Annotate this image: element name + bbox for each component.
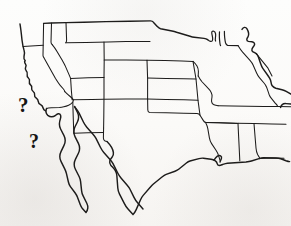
- state-border-virginia-northcarolina: [256, 54, 272, 76]
- mexico-mainland-coastline: [75, 107, 143, 209]
- state-border-california-arizona: [47, 92, 74, 109]
- state-border-arkansas-mississippi: [206, 122, 220, 160]
- united-states-outline-map: [0, 0, 291, 226]
- state-border-kentucky-tennessee: [218, 106, 291, 107]
- great-lakes-outline: [208, 31, 216, 41]
- state-border-illinois-indiana: [198, 76, 218, 106]
- question-mark-upper: ?: [18, 95, 29, 116]
- state-border-alabama-georgia: [254, 124, 260, 159]
- state-border-north-montana-dakota: [66, 41, 150, 42]
- state-border-mississippi-alabama: [238, 123, 240, 160]
- state-border-montana-wyoming: [66, 23, 67, 43]
- state-border-utah-colorado: [104, 42, 105, 128]
- state-border-arizona-newmexico: [73, 102, 74, 133]
- state-border-california-east: [43, 23, 65, 91]
- question-mark-lower: ?: [29, 131, 39, 151]
- state-border-newmexico-south: [74, 133, 104, 134]
- state-border-nebraska-kansas: [148, 78, 196, 79]
- state-border-wyoming-idaho-utah: [71, 77, 104, 78]
- state-border-tennessee-south: [206, 122, 286, 124]
- state-border-georgia-florida: [260, 158, 284, 159]
- state-border-oklahoma-texas: [148, 99, 206, 122]
- state-border-kansas-oklahoma: [148, 99, 198, 100]
- state-border-colorado-newmexico: [72, 99, 147, 100]
- lake-huron-erie-outline: [224, 31, 238, 45]
- baja-california-peninsula: [46, 107, 88, 213]
- state-border-southdakota-nebraska: [147, 60, 148, 99]
- northern-border-canada: [44, 21, 208, 40]
- lake-michigan-outline: [219, 32, 220, 46]
- gulf-coast-florida-panhandle: [222, 158, 289, 165]
- state-border-minnesota-iowa: [193, 61, 200, 115]
- northeast-coastline: [242, 27, 256, 53]
- state-border-oregon-washington: [23, 45, 43, 46]
- gulf-coastline-texas-louisiana: [107, 141, 222, 214]
- state-border-north-south-dakota: [147, 60, 193, 61]
- state-border-idaho-montana: [52, 45, 70, 79]
- scanned-map-figure: ? ?: [0, 0, 291, 226]
- state-border-washington-idaho: [51, 23, 52, 45]
- state-border-newmexico-texas: [103, 128, 107, 141]
